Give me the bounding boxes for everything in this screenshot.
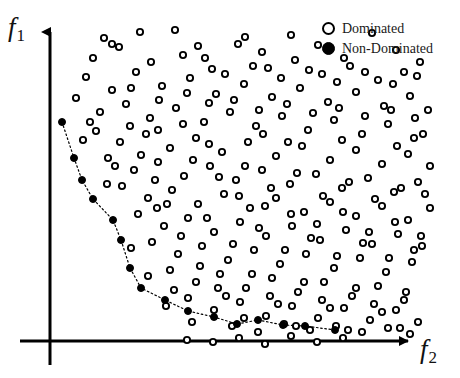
dominated-point <box>267 293 273 299</box>
non-dominated-point <box>127 265 134 272</box>
dominated-point <box>303 251 309 257</box>
legend-item-dominated: Dominated <box>322 20 433 37</box>
dominated-point <box>319 297 325 303</box>
dominated-point <box>392 219 398 225</box>
dominated-point <box>180 52 186 58</box>
dominated-point <box>353 213 359 219</box>
non-dominated-point <box>302 323 309 330</box>
dominated-point <box>181 173 187 179</box>
dominated-point <box>167 267 173 273</box>
dominated-point <box>369 241 375 247</box>
dominated-point <box>394 143 400 149</box>
dominated-point <box>282 247 288 253</box>
dominated-point <box>249 271 255 277</box>
dominated-point <box>80 137 86 143</box>
dominated-point <box>388 107 394 113</box>
dominated-point <box>336 105 342 111</box>
dominated-point <box>101 35 107 41</box>
dominated-point <box>148 59 154 65</box>
dominated-point <box>277 261 283 267</box>
dominated-point <box>241 81 247 87</box>
y-axis-label-subscript: 1 <box>16 26 26 45</box>
dominated-point <box>193 279 199 285</box>
dominated-point <box>386 255 392 261</box>
non-dominated-point <box>118 237 125 244</box>
dominated-point <box>178 233 184 239</box>
dominated-point <box>339 185 345 191</box>
dominated-point <box>193 135 199 141</box>
dominated-point <box>211 229 217 235</box>
dominated-point <box>265 65 271 71</box>
dominated-point <box>185 295 191 301</box>
dominated-point <box>197 263 203 269</box>
dominated-point <box>315 42 321 48</box>
dominated-point <box>262 203 268 209</box>
dominated-point <box>128 85 134 91</box>
dominated-point <box>327 199 333 205</box>
dominated-point <box>405 151 411 157</box>
dominated-point <box>292 57 298 63</box>
dominated-point <box>362 69 368 75</box>
dominated-point <box>288 333 294 339</box>
legend-item-non-dominated: Non-Dominated <box>322 40 433 57</box>
dominated-point <box>294 170 300 176</box>
dominated-point <box>242 163 248 169</box>
dominated-point <box>227 109 233 115</box>
dominated-point <box>385 121 391 127</box>
dominated-point <box>116 44 122 50</box>
dominated-point <box>317 237 323 243</box>
dominated-point <box>289 303 295 309</box>
dominated-point <box>210 339 216 345</box>
dominated-point <box>145 195 151 201</box>
non-dominated-point <box>280 322 287 329</box>
dominated-point <box>409 259 415 265</box>
dominated-point <box>353 89 359 95</box>
dominated-point <box>381 103 387 109</box>
dominated-point <box>414 73 420 79</box>
dominated-point <box>325 99 331 105</box>
dominated-point <box>417 59 423 65</box>
dominated-point <box>425 107 431 113</box>
dominated-point <box>259 167 265 173</box>
dominated-point <box>383 269 389 275</box>
dominated-point <box>206 141 212 147</box>
non-dominated-point <box>162 297 169 304</box>
dominated-point <box>159 83 165 89</box>
dominated-point <box>379 203 385 209</box>
dominated-point <box>217 271 223 277</box>
dominated-point <box>263 233 269 239</box>
legend-label-dominated: Dominated <box>342 21 404 37</box>
dominated-point <box>347 63 353 69</box>
dominated-point <box>273 153 279 159</box>
dominated-point <box>366 229 372 235</box>
non-dominated-point <box>90 196 97 203</box>
dominated-point <box>236 193 242 199</box>
dominated-point <box>415 319 421 325</box>
dominated-point <box>269 275 275 281</box>
dominated-point <box>305 127 311 133</box>
dominated-point <box>233 177 239 183</box>
dominated-point <box>327 305 333 311</box>
non-dominated-point <box>234 321 241 328</box>
dominated-point <box>185 215 191 221</box>
dominated-point <box>105 155 111 161</box>
dominated-point <box>221 191 227 197</box>
dominated-point <box>213 91 219 97</box>
dominated-point <box>397 325 403 331</box>
dominated-point <box>407 331 413 337</box>
dominated-point <box>247 205 253 211</box>
dominated-point <box>301 279 307 285</box>
dominated-point <box>216 174 222 180</box>
dominated-point <box>137 29 143 35</box>
dominated-point <box>152 177 158 183</box>
dominated-point <box>422 191 428 197</box>
dominated-point <box>390 81 396 87</box>
dominated-point <box>195 43 201 49</box>
dominated-point <box>391 189 397 195</box>
dominated-point <box>164 201 170 207</box>
dominated-point <box>235 41 241 47</box>
dominated-point <box>260 131 266 137</box>
dominated-point <box>97 109 103 115</box>
dominated-point <box>242 34 248 40</box>
dominated-point <box>343 227 349 233</box>
